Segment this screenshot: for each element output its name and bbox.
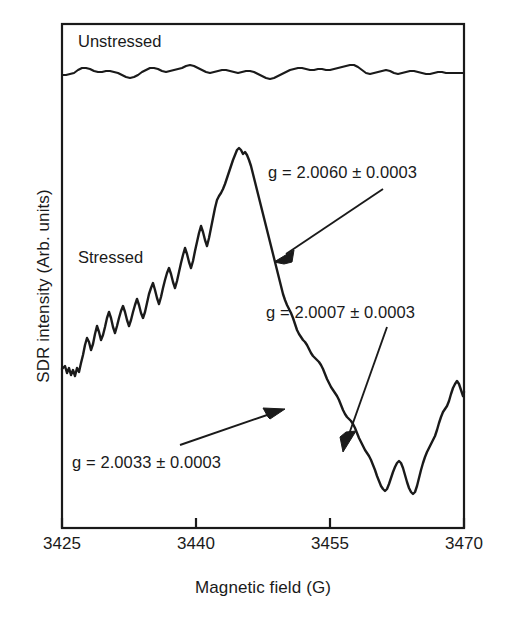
- y-axis-label: SDR intensity (Arb. units): [34, 156, 54, 416]
- annotation-g-2.0007: g = 2.0007 ± 0.0003: [266, 303, 415, 322]
- trace-label-unstressed: Unstressed: [78, 32, 161, 51]
- x-tick-label-3425: 3425: [27, 534, 97, 554]
- plot-svg: [0, 0, 510, 624]
- annotation-g-2.0033: g = 2.0033 ± 0.0003: [72, 453, 221, 472]
- sdr-spectrum-figure: SDR intensity (Arb. units) Magnetic fiel…: [0, 0, 510, 624]
- arrow-g-2.0033: [180, 408, 285, 445]
- x-axis-ticks: [62, 518, 464, 528]
- x-tick-label-3470: 3470: [429, 534, 499, 554]
- arrow-g-2.0060: [274, 189, 383, 264]
- trace-label-stressed: Stressed: [78, 248, 143, 267]
- arrow-g-2.0007: [340, 327, 387, 452]
- x-tick-label-3455: 3455: [295, 534, 365, 554]
- x-tick-label-3440: 3440: [161, 534, 231, 554]
- x-axis-label: Magnetic field (G): [62, 578, 464, 598]
- annotation-g-2.0060: g = 2.0060 ± 0.0003: [268, 163, 417, 182]
- trace-unstressed: [62, 65, 464, 79]
